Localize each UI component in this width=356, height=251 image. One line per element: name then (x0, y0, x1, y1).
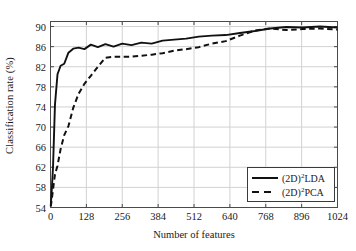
plot-area (0, 0, 356, 251)
legend: (2D)2LDA (2D)2PCA (247, 167, 335, 202)
legend-label-lda: (2D)2LDA (278, 172, 325, 184)
legend-item-pca: (2D)2PCA (252, 185, 330, 199)
classification-rate-chart: Classification rate (%) 5458626670747882… (0, 0, 356, 251)
legend-key-dashed-line (252, 187, 278, 197)
legend-key-solid-line (252, 173, 278, 183)
legend-item-lda: (2D)2LDA (252, 171, 330, 185)
legend-label-pca: (2D)2PCA (278, 186, 324, 198)
